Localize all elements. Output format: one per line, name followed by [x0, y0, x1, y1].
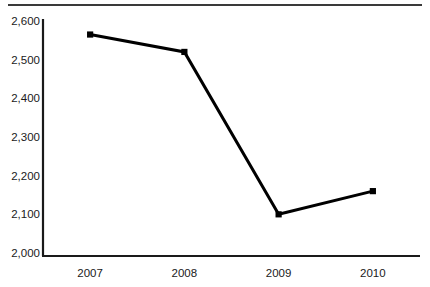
x-axis-tick-label: 2010: [348, 267, 398, 279]
chart-figure: 2,6002,5002,4002,3002,2002,1002,000 2007…: [0, 0, 430, 287]
x-axis-tick-label: 2009: [254, 267, 304, 279]
x-axis-tick-label: 2008: [159, 267, 209, 279]
x-axis-tick-labels: 2007200820092010: [0, 0, 430, 287]
x-axis-tick-label: 2007: [65, 267, 115, 279]
